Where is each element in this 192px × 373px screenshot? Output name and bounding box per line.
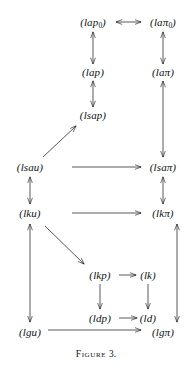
node-lsapi: (lsaπ) xyxy=(150,162,176,173)
node-lapi0-text: (laπ xyxy=(150,16,168,28)
node-lapi-text: (laπ) xyxy=(152,66,174,78)
node-ldp: (ldp) xyxy=(89,313,111,324)
node-ld-text: (ld) xyxy=(140,312,156,324)
caption-label: Figure xyxy=(76,349,106,359)
node-lgpi: (lgπ) xyxy=(152,327,174,338)
node-lap0-subscript: 0 xyxy=(99,21,103,30)
arrow-lku-lkp xyxy=(45,226,84,264)
node-lkpi: (lkπ) xyxy=(152,208,173,219)
node-lsapi-text: (lsaπ) xyxy=(150,161,176,173)
node-lkpi-text: (lkπ) xyxy=(152,207,173,219)
node-ldp-text: (ldp) xyxy=(89,312,111,324)
node-lap: (lap) xyxy=(82,67,104,78)
node-lsap: (lsap) xyxy=(80,110,106,121)
arrow-lsau-lsap xyxy=(43,126,76,157)
node-lk: (lk) xyxy=(140,270,156,281)
node-lk-text: (lk) xyxy=(140,269,156,281)
node-lapi0-subscript: 0 xyxy=(169,21,173,30)
node-lsau-text: (lsau) xyxy=(17,161,43,173)
node-lkp-text: (lkp) xyxy=(89,269,110,281)
node-lapi0: (laπ0) xyxy=(150,17,176,28)
node-lsap-text: (lsap) xyxy=(80,109,106,121)
node-lkp: (lkp) xyxy=(89,270,110,281)
node-lap0-text: (lap xyxy=(80,16,98,28)
node-ld: (ld) xyxy=(140,313,156,324)
node-lapi: (laπ) xyxy=(152,67,174,78)
node-lgpi-text: (lgπ) xyxy=(152,326,174,338)
node-lgu-text: (lgu) xyxy=(19,326,41,338)
figure-3-commutative-diagram: (lap0)(laπ0)(lap)(laπ)(lsap)(lsau)(lsaπ)… xyxy=(0,0,192,373)
node-lap-text: (lap) xyxy=(82,66,104,78)
node-lap0: (lap0) xyxy=(80,17,106,28)
node-lku: (lku) xyxy=(19,208,40,219)
node-lku-text: (lku) xyxy=(19,207,40,219)
node-lap0-close-paren: ) xyxy=(102,16,106,28)
node-lapi0-close-paren: ) xyxy=(172,16,176,28)
caption-number: 3. xyxy=(109,349,116,359)
node-lsau: (lsau) xyxy=(17,162,43,173)
node-lgu: (lgu) xyxy=(19,327,41,338)
figure-caption: Figure 3. xyxy=(0,349,192,359)
